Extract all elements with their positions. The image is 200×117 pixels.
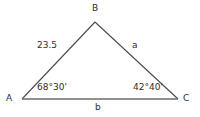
triangle-figure: A B C 23.5 a b 68°30' 42°40' xyxy=(0,0,200,117)
side-label-ab: 23.5 xyxy=(37,41,57,50)
vertex-label-c: C xyxy=(183,94,189,103)
angle-label-a: 68°30' xyxy=(37,83,67,92)
angle-label-c: 42°40' xyxy=(133,83,163,92)
triangle-drawing xyxy=(0,0,200,117)
vertex-label-a: A xyxy=(6,94,12,103)
side-label-ac: b xyxy=(95,103,101,112)
vertex-label-b: B xyxy=(92,4,98,13)
side-label-bc: a xyxy=(132,41,138,50)
